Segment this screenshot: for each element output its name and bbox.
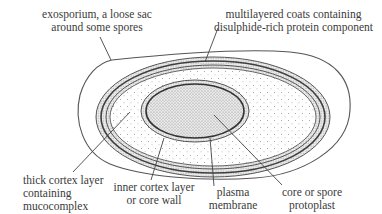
plasma-membrane <box>146 84 244 138</box>
label-coats: multilayered coats containing disulphide… <box>206 8 381 34</box>
label-exosporium: exosporium, a loose sac around some spor… <box>12 8 182 34</box>
label-core: core or spore protoplast <box>274 186 350 212</box>
label-inner-cortex: inner cortex layer or core wall <box>108 181 200 207</box>
label-plasma-membrane: plasma membrane <box>205 186 261 212</box>
label-cortex: thick cortex layer containing mucocomple… <box>23 174 103 213</box>
leader-exosporium <box>100 37 111 60</box>
